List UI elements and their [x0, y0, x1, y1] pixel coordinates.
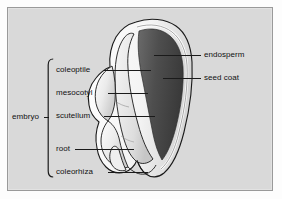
label-coleorhiza: coleorhiza: [56, 167, 93, 176]
leader-line-coleoptile: [104, 70, 151, 71]
embryo-bracket: [47, 58, 54, 178]
label-embryo: embryo: [12, 112, 39, 121]
leader-line-endosperm: [154, 55, 201, 56]
label-endosperm: endosperm: [204, 50, 244, 59]
label-mesocotyl: mesocotyl: [56, 88, 92, 97]
label-coleoptile: coleoptile: [56, 65, 90, 74]
leader-line-seed-coat: [163, 78, 201, 79]
label-scutellum: scutellum: [56, 111, 90, 120]
seed-diagram-figure: embryo coleoptile mesocotyl scutellum ro…: [0, 0, 282, 199]
label-seed-coat: seed coat: [204, 73, 239, 82]
leader-line-root: [75, 149, 134, 150]
diagram-plate: embryo coleoptile mesocotyl scutellum ro…: [7, 7, 273, 191]
leader-line-mesocotyl: [108, 93, 148, 94]
embryo-bracket-tick: [44, 117, 49, 118]
leader-line-scutellum: [104, 116, 155, 117]
label-root: root: [56, 144, 70, 153]
leader-line-coleorhiza: [108, 172, 148, 173]
